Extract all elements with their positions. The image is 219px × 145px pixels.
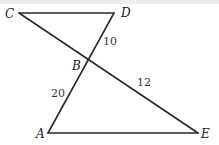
length-label-be: 12	[137, 76, 151, 89]
geometry-diagram: C D B A E 10 20 12	[0, 0, 219, 145]
length-label-bd: 10	[103, 35, 117, 48]
segment-ce	[19, 13, 198, 133]
point-label-c: C	[5, 7, 14, 21]
point-label-b: B	[71, 59, 81, 73]
point-label-e: E	[200, 127, 210, 141]
length-label-ab: 20	[51, 87, 65, 100]
segment-da	[48, 13, 114, 133]
point-label-a: A	[35, 127, 45, 141]
point-label-d: D	[120, 6, 131, 20]
